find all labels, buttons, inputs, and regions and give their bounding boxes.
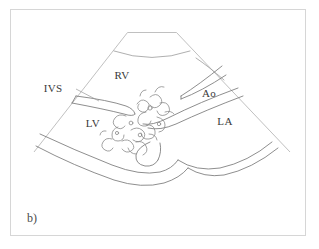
la-posterior-wall-inner (178, 142, 272, 169)
rv-outflow-boundary (196, 58, 224, 80)
panel-label: b) (27, 211, 37, 225)
ivs-lower-border (72, 103, 135, 116)
sector-near-field-arc (114, 51, 190, 58)
vegetation-strand-3 (157, 103, 170, 116)
ivs-upper-border (76, 96, 135, 114)
label-la: LA (217, 115, 232, 127)
vegetation-dot-2 (129, 121, 133, 125)
vegetation-strand-5 (113, 115, 126, 129)
vegetation-dot-4 (157, 122, 160, 125)
echocardiogram-diagram: RV IVS LV Ao LA b) (0, 0, 319, 249)
left-atrium-wall (178, 142, 278, 176)
mitral-anterior-leaflet (136, 142, 158, 166)
right-ventricle-region (196, 58, 224, 80)
vegetation-strand-1 (137, 100, 149, 112)
lv-posterior-epicardium (36, 146, 188, 185)
vegetation-strand-16 (165, 111, 174, 114)
vegetation-strand-15 (140, 90, 146, 96)
la-posterior-wall-outer (188, 148, 278, 176)
ivs-leader-line (76, 89, 99, 101)
interventricular-septum-shape (72, 96, 135, 116)
vegetation-strand-10 (102, 138, 113, 151)
vegetation-strand-17 (100, 131, 106, 135)
vegetation-strand-2 (150, 95, 162, 108)
label-lv: LV (86, 117, 100, 129)
vegetation-strand-18 (128, 148, 136, 154)
mitral-valve-leaflet (136, 142, 161, 166)
label-rv: RV (115, 69, 130, 81)
vegetation-strand-12 (136, 142, 147, 156)
ultrasound-sector-outline (34, 33, 290, 153)
figure-root: RV IVS LV Ao LA b) (0, 0, 319, 249)
vegetation-strand-8 (141, 125, 155, 139)
label-ao: Ao (202, 87, 216, 99)
sector-edge-right (177, 33, 291, 153)
mitral-leaflet-tip (158, 143, 161, 160)
vegetation-strand-14 (155, 87, 164, 92)
vegetation-strand-11 (122, 140, 134, 152)
label-ivs: IVS (44, 82, 63, 94)
vegetation-dot-5 (115, 131, 118, 134)
left-ventricle-posterior-wall (36, 134, 188, 185)
